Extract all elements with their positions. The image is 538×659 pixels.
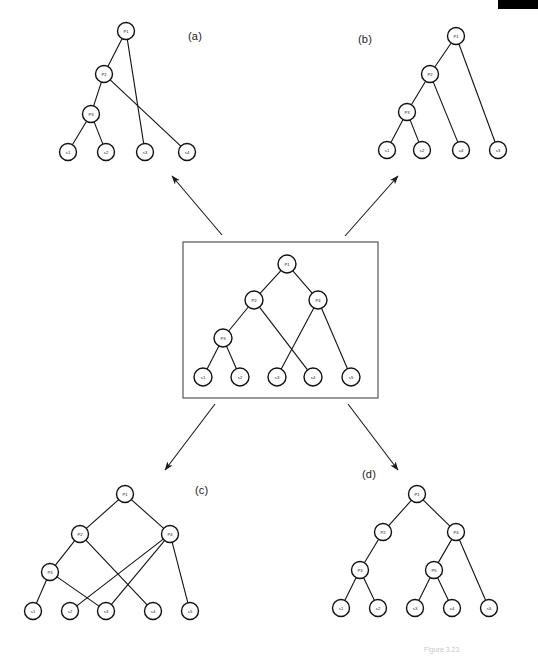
edge-P3-s1 — [345, 578, 356, 601]
node-label-s2: s2 — [68, 609, 73, 614]
edge-P2-s4 — [433, 82, 458, 142]
edge-P4-s5 — [459, 540, 485, 600]
node-label-s2: s2 — [104, 150, 109, 155]
edge-P4-s5 — [172, 542, 188, 603]
panel-center-graph: P1P2P4P3s1s2s3s4s5 — [194, 255, 360, 386]
arrow-to-panel-b — [345, 176, 398, 236]
node-label-P2: P2 — [101, 72, 107, 77]
node-label-P2: P2 — [427, 72, 433, 77]
node-label-s1: s1 — [201, 375, 206, 380]
node-label-P2: P2 — [380, 530, 386, 535]
edge-P4-P5 — [438, 539, 451, 562]
node-label-s3: s3 — [496, 148, 501, 153]
edge-P3-s1 — [72, 121, 86, 144]
edge-P5-s3 — [419, 578, 430, 601]
node-label-s3: s3 — [413, 606, 418, 611]
edge-P3-s3 — [57, 577, 99, 606]
node-label-s3: s3 — [143, 150, 148, 155]
node-label-P3: P3 — [404, 110, 410, 115]
node-label-s5: s5 — [487, 606, 492, 611]
edge-P2-P3 — [364, 539, 378, 562]
node-label-P3: P3 — [47, 570, 53, 575]
edge-P3-s2 — [227, 346, 237, 368]
node-label-s4: s4 — [450, 606, 455, 611]
node-label-s4: s4 — [151, 609, 156, 614]
node-label-P4: P4 — [167, 532, 173, 537]
edge-P3-s1 — [207, 346, 219, 369]
node-label-s1: s1 — [66, 150, 71, 155]
edge-P3-s2 — [364, 578, 375, 601]
node-label-s1: s1 — [385, 148, 390, 153]
edge-P5-s4 — [438, 578, 449, 601]
panel-c-graph: P1P2P4P3s1s2s3s4s5 — [25, 486, 199, 620]
edge-P1-P4 — [131, 500, 163, 529]
panel-label-c: (c) — [195, 484, 208, 496]
node-label-P1: P1 — [414, 492, 420, 497]
edge-P1-P2 — [86, 500, 118, 529]
node-label-s3: s3 — [104, 609, 109, 614]
node-label-s2: s2 — [238, 375, 243, 380]
edge-P2-P3 — [229, 307, 249, 331]
arrow-to-panel-a — [172, 176, 222, 235]
edge-P3-s2 — [410, 120, 419, 142]
edge-P2-P3 — [55, 541, 74, 566]
panel-label-b: (b) — [358, 33, 372, 45]
tree-diagram-svg: P1P2P3s1s2s3s4 P1P2P3s1s2s4s3 P1P2P4P3s1… — [0, 0, 538, 659]
node-label-P4: P4 — [315, 298, 321, 303]
node-label-P1: P1 — [453, 34, 459, 39]
edge-P2-P3 — [411, 81, 425, 104]
node-label-P1: P1 — [123, 29, 129, 34]
edge-P4-s3 — [281, 308, 314, 369]
edge-P1-P4 — [293, 271, 312, 293]
transformation-arrows-group — [165, 176, 398, 470]
panel-a-graph: P1P2P3s1s2s3s4 — [60, 23, 196, 161]
edge-P1-P2 — [389, 500, 412, 525]
arrow-to-panel-d — [348, 404, 398, 470]
node-label-s2: s2 — [420, 148, 425, 153]
edge-P4-s5 — [322, 308, 348, 368]
edge-P3-s2 — [94, 122, 103, 144]
node-label-s1: s1 — [339, 606, 344, 611]
edge-P1-s3 — [459, 44, 495, 142]
panel-label-d: (d) — [362, 468, 376, 480]
node-label-P2: P2 — [77, 532, 83, 537]
page-edge-marker — [498, 0, 538, 9]
node-label-s4: s4 — [459, 148, 464, 153]
arrow-to-panel-c — [165, 404, 215, 470]
node-label-P4: P4 — [453, 530, 459, 535]
edge-P1-P4 — [423, 500, 450, 526]
edge-P3-s1 — [391, 120, 403, 143]
node-label-P5: P5 — [431, 568, 437, 573]
panel-label-a: (a) — [188, 30, 202, 42]
edge-P2-s4 — [110, 80, 181, 146]
node-label-s4: s4 — [311, 375, 316, 380]
edge-P1-s3 — [127, 39, 143, 143]
node-label-s3: s3 — [275, 375, 280, 380]
node-label-P3: P3 — [357, 568, 363, 573]
edge-P2-P3 — [94, 82, 102, 106]
node-label-s5: s5 — [188, 609, 193, 614]
edge-P1-P2 — [260, 271, 281, 294]
panel-b-graph: P1P2P3s1s2s4s3 — [379, 28, 507, 159]
figure-canvas: P1P2P3s1s2s3s4 P1P2P3s1s2s4s3 P1P2P4P3s1… — [0, 0, 538, 659]
node-label-s1: s1 — [31, 609, 36, 614]
edge-P1-P2 — [435, 43, 451, 67]
node-label-P1: P1 — [284, 262, 290, 267]
panel-d-graph: P1P2P4P3P5s1s2s3s4s5 — [333, 486, 498, 617]
edge-P2-s4 — [259, 307, 307, 370]
edge-P4-s2 — [77, 539, 164, 606]
node-label-s5: s5 — [349, 375, 354, 380]
node-label-P3: P3 — [88, 112, 94, 117]
node-label-s2: s2 — [376, 606, 381, 611]
node-label-P1: P1 — [122, 492, 128, 497]
node-label-P2: P2 — [251, 298, 257, 303]
node-label-s4: s4 — [185, 150, 190, 155]
figure-caption: Figure 3.23 — [424, 646, 459, 653]
node-label-P3: P3 — [220, 336, 226, 341]
edge-P1-P2 — [108, 39, 122, 67]
edge-P3-s1 — [36, 580, 46, 603]
